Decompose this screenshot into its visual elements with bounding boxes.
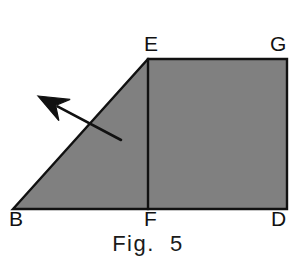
trapezoid-shape — [13, 59, 287, 209]
vertex-label-g: G — [270, 33, 286, 54]
figure-5-container: E G B F D Fig. 5 — [0, 0, 296, 262]
vertex-label-b: B — [9, 208, 23, 229]
vertex-label-e: E — [144, 33, 158, 54]
vertex-label-d: D — [271, 208, 286, 229]
arrow-head-icon — [38, 96, 70, 121]
figure-caption: Fig. 5 — [0, 233, 296, 255]
vertex-label-f: F — [144, 208, 157, 229]
